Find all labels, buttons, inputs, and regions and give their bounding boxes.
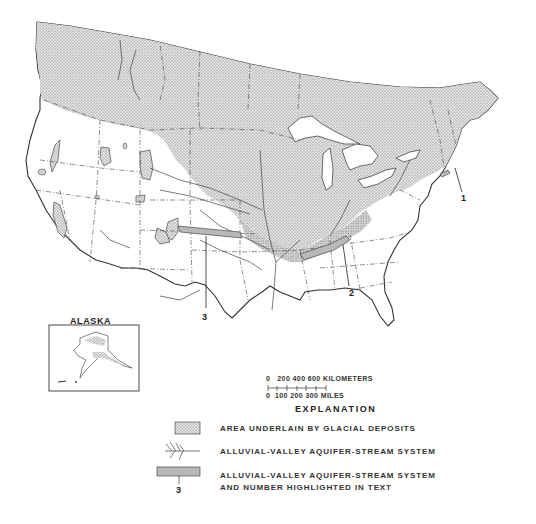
stream-network-symbol — [165, 442, 200, 460]
callout-2: 2 — [349, 288, 354, 298]
legend-item-aquifer-stream-system: ALLUVIAL-VALLEY AQUIFER-STREAM SYSTEM — [220, 446, 436, 457]
legend-example-number: 3 — [176, 485, 181, 495]
glacial-deposits-swatch — [175, 422, 200, 434]
legend-symbols — [157, 422, 200, 484]
highlight-bar-swatch — [157, 467, 200, 476]
callout-1: 1 — [461, 193, 466, 203]
scale-miles-label: 0 100 200 300 MILES — [266, 392, 344, 399]
alaska-inset-title: ALASKA — [70, 316, 111, 326]
callout-3: 3 — [202, 312, 207, 322]
scale-kilometers-label: 0 200 400 600 KILOMETERS — [266, 375, 373, 382]
legend-title: EXPLANATION — [295, 404, 376, 414]
alaska-inset — [49, 325, 139, 391]
legend-item-highlighted-system-line2: AND NUMBER HIGHLIGHTED IN TEXT — [220, 482, 392, 493]
scale-bar — [268, 385, 326, 391]
legend-item-glacial-deposits: AREA UNDERLAIN BY GLACIAL DEPOSITS — [220, 423, 416, 434]
legend-item-highlighted-system-line1: ALLUVIAL-VALLEY AQUIFER-STREAM SYSTEM — [220, 470, 436, 481]
